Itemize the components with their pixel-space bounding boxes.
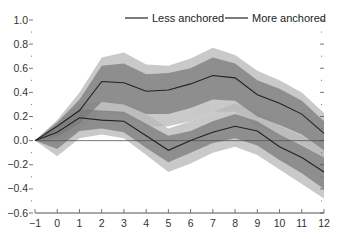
confidence-bands	[35, 48, 324, 199]
x-tick-label: 10	[274, 217, 286, 229]
y-tick-label: 0.8	[13, 38, 28, 50]
legend-label-less-anchored: Less anchored	[152, 12, 224, 24]
y-tick-label: −0.2	[7, 158, 28, 170]
x-tick-label: 9	[254, 217, 260, 229]
x-tick-label: 7	[210, 217, 216, 229]
x-tick-label: 3	[121, 217, 127, 229]
x-tick-label: 1	[77, 217, 83, 229]
y-tick-label: 0.0	[13, 134, 28, 146]
x-tick-label: 0	[54, 217, 60, 229]
y-tick-label: 1.0	[13, 14, 28, 26]
x-tick-label: 6	[188, 217, 194, 229]
y-tick-label: 0.6	[13, 62, 28, 74]
y-tick-label: 0.2	[13, 110, 28, 122]
line-chart: 1.00.80.60.40.20.0−0.2−0.4−0.6 −10123456…	[0, 0, 344, 239]
x-tick-label: 5	[165, 217, 171, 229]
x-tick-label: 8	[232, 217, 238, 229]
legend-label-more-anchored: More anchored	[252, 12, 326, 24]
x-tick-label: 12	[318, 217, 330, 229]
y-axis: 1.00.80.60.40.20.0−0.2−0.4−0.6	[7, 14, 33, 219]
y-tick-label: 0.4	[13, 86, 28, 98]
x-axis: −10123456789101112	[29, 209, 330, 229]
x-tick-label: 2	[99, 217, 105, 229]
x-tick-label: 11	[296, 217, 307, 229]
y-tick-label: −0.4	[7, 182, 28, 194]
x-tick-label: 4	[143, 217, 149, 229]
y-tick-label: −0.6	[7, 207, 28, 219]
x-tick-label: −1	[29, 217, 41, 229]
legend: Less anchored More anchored	[125, 12, 326, 24]
